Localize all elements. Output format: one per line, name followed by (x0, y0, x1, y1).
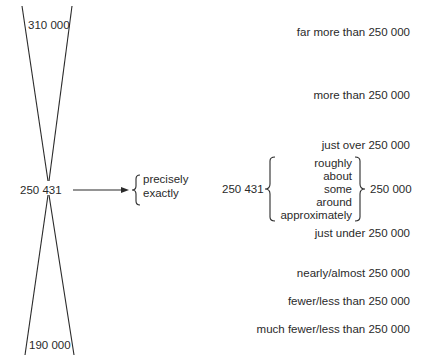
scale-nearly: nearly/almost 250 000 (297, 267, 410, 280)
bottom-value-label: 190 000 (29, 339, 71, 352)
exact-word-exactly: exactly (143, 187, 179, 200)
left-brace-exact (132, 175, 140, 205)
scale-just-over: just over 250 000 (322, 139, 410, 152)
exact-word-precisely: precisely (143, 173, 188, 186)
approx-word-about: about (323, 170, 352, 183)
scale-fewer: fewer/less than 250 000 (288, 295, 410, 308)
scale-much-fewer: much fewer/less than 250 000 (257, 323, 410, 336)
scale-just-under: just under 250 000 (315, 227, 410, 240)
scale-more: more than 250 000 (313, 89, 410, 102)
diagram-lines (0, 0, 433, 363)
center-value-label: 250 431 (20, 184, 62, 197)
right-brace-approx (355, 157, 365, 221)
scale-far-more: far more than 250 000 (297, 26, 410, 39)
approx-target-label: 250 000 (370, 183, 412, 196)
arrow-head (121, 187, 129, 193)
hourglass-bottom-left-line (25, 195, 48, 355)
approx-source-label: 250 431 (222, 183, 264, 196)
left-brace-approx (265, 157, 275, 221)
approx-word-some: some (324, 183, 352, 196)
top-value-label: 310 000 (28, 19, 70, 32)
hourglass-bottom-right-line (49, 195, 74, 355)
approx-word-around: around (316, 196, 352, 209)
hourglass-top-right-line (49, 6, 72, 181)
hourglass-top-left-line (22, 6, 48, 181)
approx-word-approximately: approximately (280, 209, 352, 222)
approx-word-roughly: roughly (314, 157, 352, 170)
